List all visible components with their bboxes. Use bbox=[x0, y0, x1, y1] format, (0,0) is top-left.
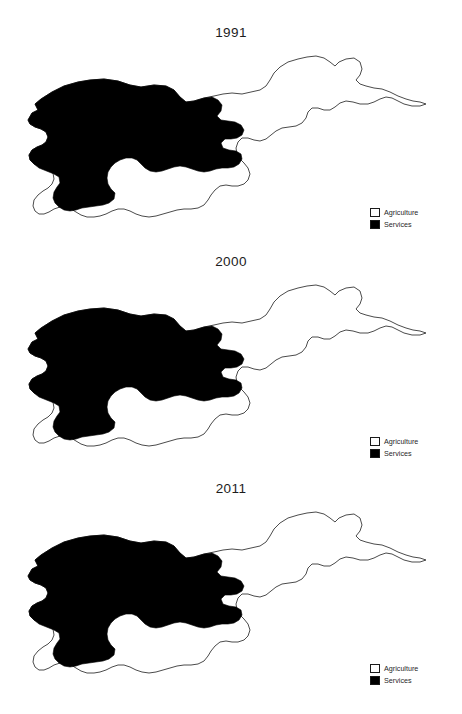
map-panel-2000: 2000 Agriculture Services bbox=[0, 229, 462, 459]
legend-swatch-agriculture-icon bbox=[370, 437, 380, 446]
panel-title-1991: 1991 bbox=[0, 25, 462, 40]
legend-2011: Agriculture Services bbox=[370, 663, 460, 687]
figure-map-series: 1991 Agriculture Services 2000 bbox=[0, 0, 462, 714]
legend-swatch-services-icon bbox=[370, 220, 380, 229]
map-panel-2011: 2011 Agriculture Services bbox=[0, 456, 462, 686]
legend-label-agriculture: Agriculture bbox=[384, 437, 418, 446]
legend-1991: Agriculture Services bbox=[370, 207, 460, 231]
panel-title-2011: 2011 bbox=[0, 481, 462, 496]
legend-label-agriculture: Agriculture bbox=[384, 664, 418, 673]
slovenia-map-2011 bbox=[8, 496, 454, 682]
legend-item-agriculture: Agriculture bbox=[370, 663, 460, 674]
legend-item-services: Services bbox=[370, 675, 460, 686]
legend-label-agriculture: Agriculture bbox=[384, 208, 418, 217]
legend-label-services: Services bbox=[384, 676, 412, 685]
legend-item-agriculture: Agriculture bbox=[370, 207, 460, 218]
legend-label-services: Services bbox=[384, 220, 412, 229]
map-panel-1991: 1991 Agriculture Services bbox=[0, 0, 462, 230]
legend-swatch-agriculture-icon bbox=[370, 664, 380, 673]
legend-item-agriculture: Agriculture bbox=[370, 436, 460, 447]
panel-title-2000: 2000 bbox=[0, 254, 462, 269]
slovenia-map-2000 bbox=[8, 269, 454, 455]
legend-swatch-agriculture-icon bbox=[370, 208, 380, 217]
slovenia-map-1991 bbox=[8, 40, 454, 226]
figure-caption bbox=[18, 702, 448, 712]
legend-swatch-services-icon bbox=[370, 676, 380, 685]
